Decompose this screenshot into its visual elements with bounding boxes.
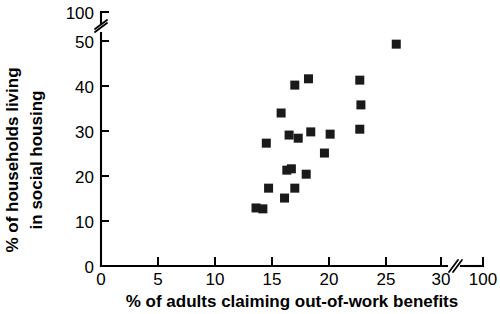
x-tick-label-100: 100 [469, 270, 497, 289]
x-tick-marks [101, 257, 483, 266]
x-tick-label-0: 0 [96, 270, 105, 289]
x-axis-title: % of adults claiming out-of-work benefit… [126, 292, 458, 311]
data-point [287, 164, 296, 173]
y-axis [95, 12, 107, 266]
data-point [320, 149, 329, 158]
x-tick-label-10: 10 [206, 270, 225, 289]
x-tick-label-15: 15 [263, 270, 282, 289]
data-point [285, 131, 294, 140]
y-tick-label-30: 30 [75, 123, 94, 142]
data-point [264, 184, 273, 193]
y-axis-title-line-2: in social housing [27, 91, 46, 230]
x-tick-label-30: 30 [432, 270, 451, 289]
x-tick-labels: 0 5 10 15 20 25 30 100 [96, 270, 497, 289]
data-point [290, 81, 299, 90]
y-tick-label-40: 40 [75, 78, 94, 97]
data-point [290, 184, 299, 193]
data-point-group [252, 40, 401, 214]
y-tick-label-10: 10 [75, 213, 94, 232]
data-point [294, 134, 303, 143]
data-point [355, 125, 364, 134]
data-point [262, 139, 271, 148]
y-tick-label-50: 50 [75, 33, 94, 52]
data-point [392, 40, 401, 49]
chart-figure: 0 10 20 30 40 50 100 0 5 10 15 20 25 30 … [0, 0, 500, 314]
x-tick-label-25: 25 [377, 270, 396, 289]
y-tick-labels: 0 10 20 30 40 50 100 [66, 4, 94, 277]
data-point [302, 170, 311, 179]
data-point [326, 130, 335, 139]
data-point [355, 76, 364, 85]
y-tick-label-0: 0 [85, 258, 94, 277]
data-point [304, 74, 313, 83]
data-point [280, 194, 289, 203]
data-point [306, 127, 315, 136]
y-tick-label-20: 20 [75, 168, 94, 187]
x-tick-label-20: 20 [320, 270, 339, 289]
y-tick-label-100: 100 [66, 4, 94, 23]
data-point [277, 109, 286, 118]
data-point [258, 204, 267, 213]
scatter-plot: 0 10 20 30 40 50 100 0 5 10 15 20 25 30 … [0, 0, 500, 314]
y-tick-marks [101, 12, 109, 266]
x-tick-label-5: 5 [153, 270, 162, 289]
data-point [356, 100, 365, 109]
y-axis-title-line-1: % of households living [3, 67, 22, 252]
